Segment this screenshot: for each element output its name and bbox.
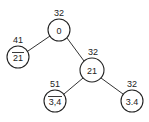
node-label: 51 bbox=[50, 79, 60, 89]
node-value: 21 bbox=[13, 53, 23, 63]
tree-node-right-right: 32 3.4 bbox=[121, 79, 143, 112]
edge-root-left bbox=[28, 36, 50, 51]
node-label: 41 bbox=[13, 35, 23, 45]
node-label: 32 bbox=[88, 47, 98, 57]
tree-node-right-left: 51 3,4 bbox=[44, 79, 66, 112]
node-value: 21 bbox=[87, 66, 97, 76]
edge-right-rightright bbox=[101, 78, 123, 94]
node-value: 3,4 bbox=[49, 97, 62, 107]
tree-edges bbox=[28, 36, 123, 94]
node-label: 32 bbox=[127, 79, 137, 89]
tree-node-right: 32 21 bbox=[80, 47, 104, 82]
node-value: 3.4 bbox=[126, 97, 139, 107]
node-label: 32 bbox=[54, 8, 64, 18]
tree-node-root: 32 0 bbox=[48, 8, 70, 41]
edge-right-rightleft bbox=[64, 78, 83, 94]
node-value: 0 bbox=[56, 26, 61, 36]
tree-node-left: 41 21 bbox=[7, 35, 29, 68]
tree-diagram: 32 0 41 21 32 21 51 3,4 32 3.4 bbox=[0, 0, 149, 122]
edge-root-right bbox=[67, 38, 84, 61]
